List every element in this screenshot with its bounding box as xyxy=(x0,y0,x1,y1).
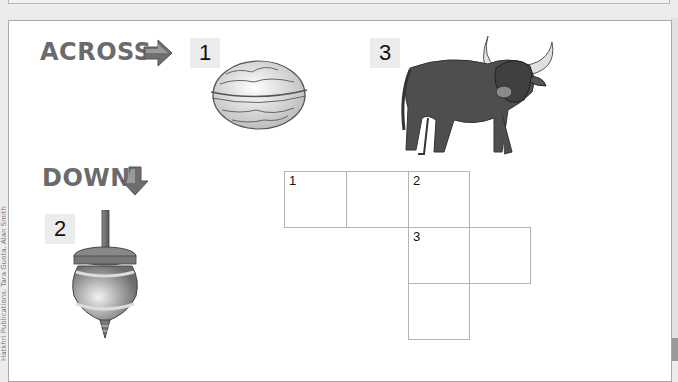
down-heading: DOWN xyxy=(42,164,131,192)
cell-clue-number: 2 xyxy=(413,173,420,188)
crossword-cell[interactable] xyxy=(408,283,470,340)
crossword-cell[interactable] xyxy=(469,227,531,284)
clue-number-badge: 3 xyxy=(370,38,400,68)
cell-clue-number: 1 xyxy=(289,173,296,188)
page-edge xyxy=(671,18,678,361)
side-credit-text: Hatkhri Publications, Tara Gupta, Alan S… xyxy=(0,195,6,361)
crossword-cell-1-across[interactable]: 1 xyxy=(284,171,347,228)
side-credit: Hatkhri Publications, Tara Gupta, Alan S… xyxy=(0,195,6,361)
walnut-image xyxy=(208,56,310,132)
top-frame xyxy=(8,0,670,4)
arrow-down-icon xyxy=(120,165,150,197)
arrow-right-icon xyxy=(142,38,174,68)
crossword-cell[interactable] xyxy=(346,171,409,228)
page-tab xyxy=(671,338,678,361)
across-heading: ACROSS xyxy=(40,38,152,66)
spinning-top-image xyxy=(70,210,140,340)
crossword-cell-2-down[interactable]: 2 xyxy=(408,171,470,228)
buffalo-image xyxy=(398,34,562,158)
cell-clue-number: 3 xyxy=(413,229,420,244)
crossword-cell-3-across[interactable]: 3 xyxy=(408,227,470,284)
